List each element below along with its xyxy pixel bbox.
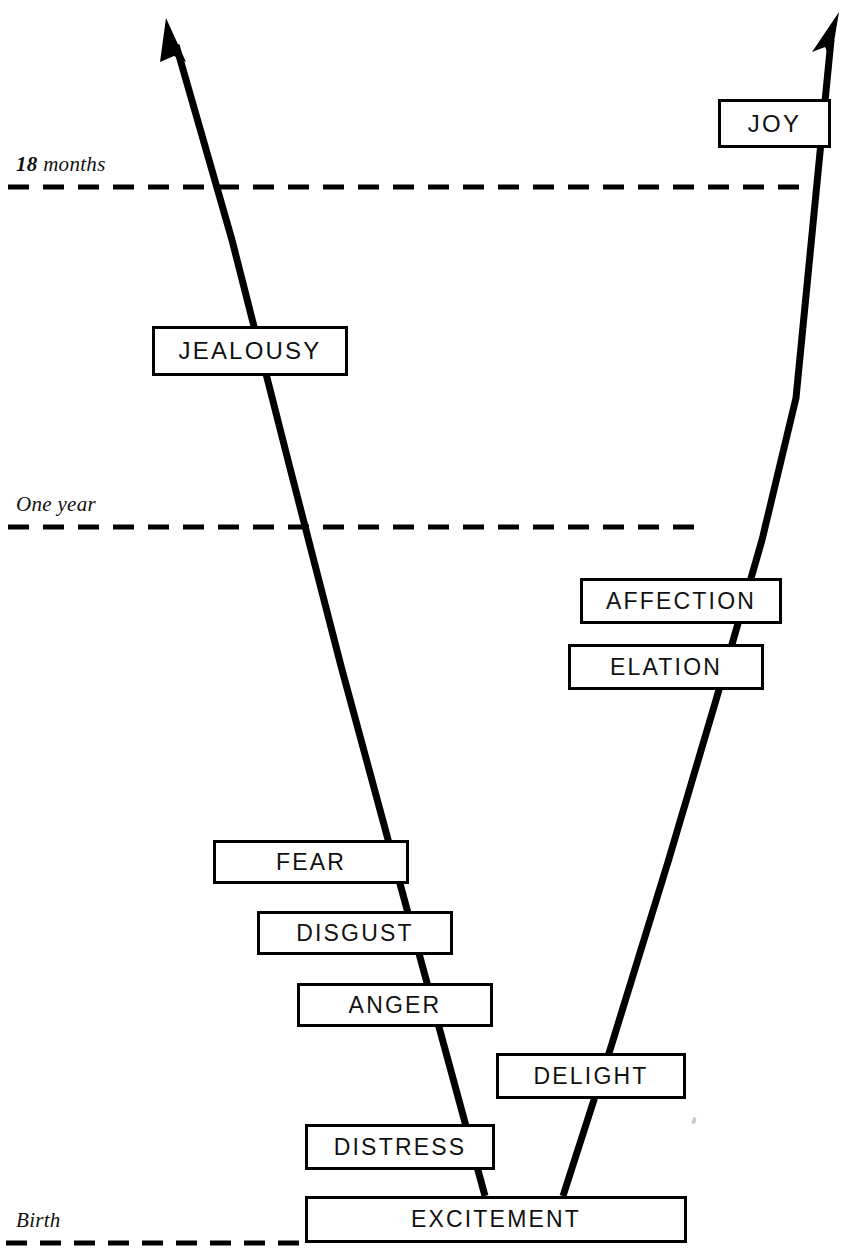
emotion-box-elation[interactable]: ELATION bbox=[568, 644, 764, 690]
emotion-box-affection[interactable]: AFFECTION bbox=[580, 578, 782, 624]
arrowhead-negative-branch bbox=[160, 18, 186, 62]
emotion-label-distress: DISTRESS bbox=[334, 1134, 467, 1161]
emotion-label-jealousy: JEALOUSY bbox=[179, 337, 322, 365]
emotion-box-disgust[interactable]: DISGUST bbox=[257, 911, 453, 955]
emotion-label-disgust: DISGUST bbox=[296, 920, 414, 947]
emotion-label-elation: ELATION bbox=[610, 654, 722, 681]
emotion-label-fear: FEAR bbox=[276, 849, 346, 876]
emotion-box-jealousy[interactable]: JEALOUSY bbox=[152, 326, 348, 376]
emotion-label-excitement: EXCITEMENT bbox=[411, 1206, 581, 1233]
emotion-box-distress[interactable]: DISTRESS bbox=[305, 1124, 495, 1170]
time-label-eighteen-months: 18 months bbox=[16, 152, 106, 177]
emotion-box-anger[interactable]: ANGER bbox=[297, 983, 493, 1027]
emotion-label-affection: AFFECTION bbox=[606, 588, 756, 615]
emotion-box-joy[interactable]: JOY bbox=[718, 99, 831, 148]
emotion-label-delight: DELIGHT bbox=[533, 1063, 648, 1090]
time-label-one-year: One year bbox=[16, 492, 96, 517]
arrowhead-positive-branch bbox=[812, 12, 839, 60]
emotion-label-joy: JOY bbox=[748, 110, 801, 138]
emotion-label-anger: ANGER bbox=[349, 992, 442, 1019]
emotion-box-delight[interactable]: DELIGHT bbox=[496, 1053, 686, 1099]
diagram-vector-layer bbox=[0, 0, 853, 1260]
time-label-eighteen-months-unit: months bbox=[38, 152, 106, 176]
time-label-eighteen-months-number: 18 bbox=[16, 152, 38, 176]
emotion-box-excitement[interactable]: EXCITEMENT bbox=[305, 1196, 687, 1243]
time-label-one-year-text: One year bbox=[16, 492, 96, 516]
diagram-canvas: 18 months One year Birth JOY JEALOUSY AF… bbox=[0, 0, 853, 1260]
emotion-box-fear[interactable]: FEAR bbox=[213, 840, 409, 884]
time-label-birth-text: Birth bbox=[16, 1208, 61, 1232]
time-label-birth: Birth bbox=[16, 1208, 61, 1233]
